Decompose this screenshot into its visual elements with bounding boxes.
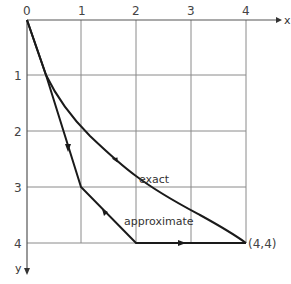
- endpoint-label: (4,4): [248, 237, 276, 251]
- x-tick-1: 1: [78, 4, 86, 18]
- x-tick-2: 2: [132, 4, 140, 18]
- exact-arrow-icon: [112, 158, 119, 164]
- approximate-arrow-3-icon: [178, 240, 186, 246]
- x-tick-0: 0: [23, 4, 31, 18]
- y-tick-2: 2: [14, 125, 22, 139]
- y-tick-4: 4: [14, 237, 22, 251]
- y-tick-3: 3: [14, 181, 22, 195]
- x-tick-3: 3: [187, 4, 195, 18]
- diagram-canvas: 0 1 2 3 4 x 1 2 3 4 y exact approximate …: [0, 0, 291, 284]
- y-axis-arrow-icon: [24, 268, 30, 275]
- x-axis-label: x: [284, 14, 291, 27]
- exact-label: exact: [139, 173, 170, 186]
- y-axis-label: y: [15, 262, 22, 275]
- y-tick-1: 1: [14, 69, 22, 83]
- x-tick-4: 4: [242, 4, 250, 18]
- approximate-label: approximate: [124, 215, 194, 228]
- x-axis-arrow-icon: [276, 17, 282, 23]
- axes: [24, 17, 282, 275]
- grid: [27, 20, 246, 243]
